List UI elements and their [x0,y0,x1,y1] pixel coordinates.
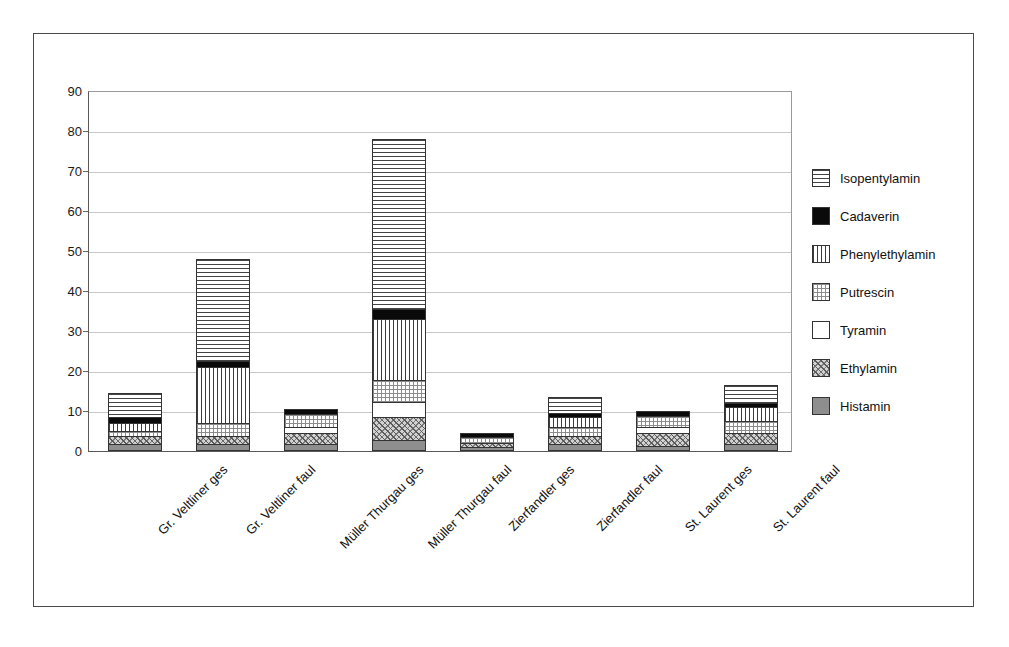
legend-label: Histamin [840,399,891,414]
segment-putrescin [637,416,689,427]
legend-label: Putrescin [840,285,894,300]
bar-st-laurent-ges[interactable] [636,411,690,451]
segment-histamin [109,444,161,450]
bar-mueller-thurgau-faul[interactable] [372,139,426,451]
y-tick-label: 70 [42,165,82,178]
legend-item-histamin[interactable]: Histamin [812,396,962,416]
segment-putrescin [373,380,425,402]
segment-isopentylamin [197,260,249,361]
vertical-lines-swatch-icon [812,245,830,263]
bar-zierfandler-ges[interactable] [460,433,514,451]
legend-item-ethylamin[interactable]: Ethylamin [812,358,962,378]
segment-putrescin [549,427,601,437]
bar-gr-veltliner-faul[interactable] [196,259,250,451]
bar-zierfandler-faul[interactable] [548,397,602,451]
segment-phenylethylamin [725,407,777,421]
segment-isopentylamin [549,398,601,413]
segment-histamin [461,447,513,450]
segment-ethylamin [109,436,161,444]
y-tick-label: 80 [42,125,82,138]
segment-ethylamin [549,436,601,444]
segment-tyramin [373,402,425,417]
segment-ethylamin [197,436,249,444]
segment-histamin [549,444,601,450]
white-swatch-icon [812,321,830,339]
legend: Isopentylamin Cadaverin Phenylethylamin … [812,168,962,434]
segment-cadaverin [373,309,425,319]
segment-ethylamin [285,433,337,444]
segment-isopentylamin [109,394,161,417]
y-tick-label: 90 [42,85,82,98]
segment-phenylethylamin [109,423,161,431]
gridline [89,172,791,173]
gridline [89,252,791,253]
gridline [89,212,791,213]
segment-histamin [725,444,777,450]
legend-label: Tyramin [840,323,886,338]
gridline [89,132,791,133]
legend-item-cadaverin[interactable]: Cadaverin [812,206,962,226]
segment-putrescin [725,421,777,433]
y-axis: 90 80 70 60 50 40 30 20 10 0 [38,0,82,647]
bar-st-laurent-faul[interactable] [724,385,778,451]
segment-phenylethylamin [373,319,425,381]
bar-gr-veltliner-ges[interactable] [108,393,162,451]
solid-black-swatch-icon [812,207,830,225]
segment-ethylamin [637,433,689,446]
segment-ethylamin [725,433,777,445]
bar-mueller-thurgau-ges[interactable] [284,409,338,451]
diagonal-hatch-swatch-icon [812,359,830,377]
legend-label: Phenylethylamin [840,247,935,262]
y-tick-label: 60 [42,205,82,218]
gridline [89,372,791,373]
segment-isopentylamin [373,140,425,309]
segment-phenylethylamin [197,367,249,423]
solid-gray-swatch-icon [812,397,830,415]
legend-label: Isopentylamin [840,171,920,186]
legend-item-tyramin[interactable]: Tyramin [812,320,962,340]
fine-dots-swatch-icon [812,283,830,301]
segment-histamin [637,446,689,450]
segment-phenylethylamin [549,417,601,427]
segment-histamin [373,440,425,450]
horizontal-lines-swatch-icon [812,169,830,187]
y-tick-label: 40 [42,285,82,298]
legend-label: Cadaverin [840,209,899,224]
segment-ethylamin [373,417,425,440]
y-tick-label: 50 [42,245,82,258]
y-tick-label: 20 [42,365,82,378]
legend-item-phenylethylamin[interactable]: Phenylethylamin [812,244,962,264]
gridline [89,292,791,293]
plot-area [88,91,792,452]
y-tick-label: 0 [42,445,82,458]
y-tick-label: 30 [42,325,82,338]
segment-histamin [197,444,249,450]
segment-isopentylamin [725,386,777,403]
y-tick-label: 10 [42,405,82,418]
legend-item-putrescin[interactable]: Putrescin [812,282,962,302]
segment-putrescin [285,414,337,427]
chart-page: 90 80 70 60 50 40 30 20 10 0 [0,0,1009,647]
legend-item-isopentylamin[interactable]: Isopentylamin [812,168,962,188]
segment-putrescin [197,423,249,436]
gridline [89,332,791,333]
legend-label: Ethylamin [840,361,897,376]
segment-histamin [285,444,337,450]
